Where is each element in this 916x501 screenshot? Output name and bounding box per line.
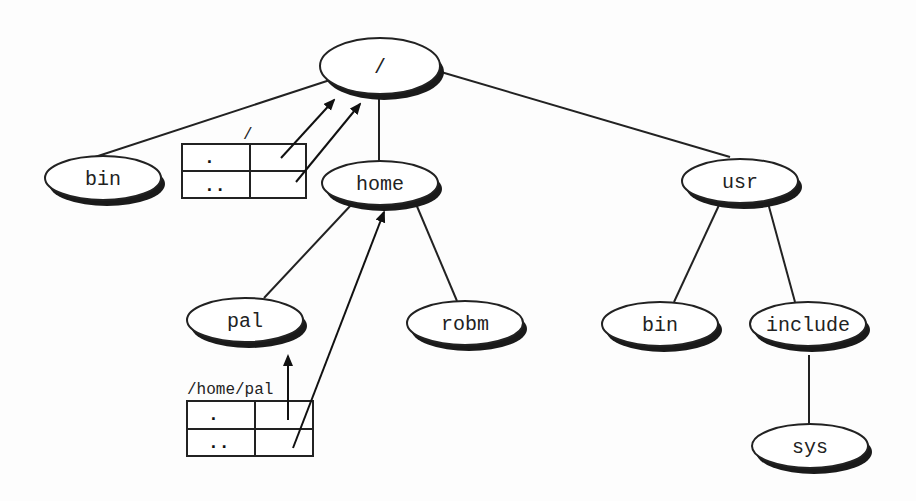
tree-node-usr: usr — [682, 159, 802, 209]
node-label: robm — [441, 313, 489, 336]
tree-node-root: / — [320, 38, 444, 100]
edge-root-usr — [441, 72, 730, 157]
node-label: bin — [642, 314, 678, 337]
edge-usr-include — [768, 203, 795, 302]
tree-node-bin: bin — [45, 156, 165, 206]
diagram-svg: /binhomeusrpalrobmbinincludesys / . .. /… — [0, 0, 916, 501]
pal-dir-caption: /home/pal — [187, 381, 273, 399]
tree-node-home: home — [322, 161, 442, 211]
tree-node-usr-bin: bin — [602, 302, 722, 352]
root-directory-table: / . .. — [182, 126, 306, 198]
node-label: pal — [227, 310, 263, 333]
tree-node-sys: sys — [752, 424, 872, 474]
arrow-pal-dotdot-to-home — [293, 212, 384, 448]
node-label: / — [374, 56, 386, 79]
tree-node-include: include — [750, 302, 870, 352]
directory-tree-diagram: /binhomeusrpalrobmbinincludesys / . .. /… — [0, 0, 916, 501]
tree-node-pal: pal — [187, 298, 307, 348]
arrow-root-dot-to-root — [281, 100, 334, 158]
node-label: include — [766, 314, 850, 337]
pal-dir-entry-dotdot: .. — [208, 433, 230, 453]
root-dir-entry-dotdot: .. — [204, 176, 226, 196]
node-label: bin — [85, 168, 121, 191]
edge-home-pal — [264, 204, 352, 298]
node-label: sys — [792, 436, 828, 459]
root-dir-caption: / — [243, 126, 253, 144]
edge-home-robm — [416, 204, 457, 301]
node-label: home — [356, 173, 404, 196]
node-label: usr — [722, 171, 758, 194]
edge-usr-bin — [674, 203, 720, 302]
pal-dir-entry-dot: . — [208, 405, 219, 425]
tree-edges — [95, 72, 809, 424]
tree-node-robm: robm — [407, 301, 527, 351]
root-dir-entry-dot: . — [204, 148, 215, 168]
